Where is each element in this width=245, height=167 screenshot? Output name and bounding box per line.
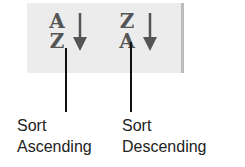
label-line-1: Sort (122, 115, 207, 136)
sort-ascending-icon: A Z (45, 11, 69, 51)
label-line-2: Descending (122, 136, 207, 157)
sort-ascending-button[interactable]: A Z (45, 11, 95, 65)
sort-ascending-label: Sort Ascending (17, 115, 92, 157)
callout-line-descending (130, 42, 132, 112)
sort-toolbar: A Z Z A (27, 3, 184, 73)
sort-descending-button[interactable]: Z A (115, 11, 165, 65)
sort-descending-label: Sort Descending (122, 115, 207, 157)
letter-bottom: A (115, 31, 139, 51)
sort-descending-icon: Z A (115, 11, 139, 51)
arrow-down-icon (141, 13, 159, 53)
letter-top: Z (115, 11, 139, 31)
letter-top: A (45, 11, 69, 31)
label-line-1: Sort (17, 115, 92, 136)
callout-line-ascending (65, 48, 67, 112)
label-line-2: Ascending (17, 136, 92, 157)
arrow-down-icon (71, 13, 89, 53)
